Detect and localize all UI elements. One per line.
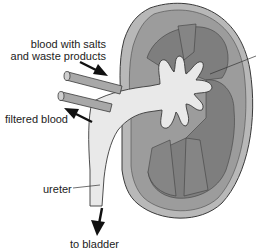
label-to-bladder: to bladder [70, 238, 119, 250]
label-blood-in: blood with salts and waste products [11, 38, 106, 62]
arrow-in [80, 62, 96, 70]
label-blood-in-line2: and waste products [11, 50, 106, 62]
label-blood-in-line1: blood with salts [11, 38, 106, 50]
label-filtered-blood: filtered blood [5, 113, 68, 125]
label-ureter: ureter [43, 183, 72, 195]
arrow-in-head [93, 64, 108, 76]
arrow-bladder-head [91, 220, 105, 236]
renal-artery [66, 72, 122, 94]
